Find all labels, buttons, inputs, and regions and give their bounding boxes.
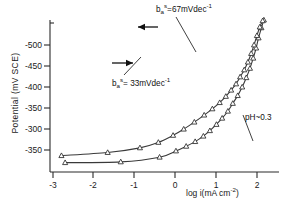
x-tick-label-5: 2 [245, 180, 269, 190]
data-point-marker [247, 66, 252, 71]
annotation-upper-value: =67mVdec [167, 5, 206, 14]
arrow-lower [112, 60, 133, 66]
data-point-marker [192, 119, 197, 124]
curve-upper-branch [65, 20, 264, 163]
annotation-ph: pH~0.3 [245, 113, 272, 122]
data-point-marker [251, 55, 256, 60]
annotation-tafel-slope-lower: bas= 33mVdec-1 [112, 76, 170, 89]
x-axis-title: log i(mA cm-2) [186, 186, 239, 198]
x-axis-title-main: log i(mA cm [186, 188, 230, 198]
annotation-tafel-slope-upper: bas=67mVdec-1 [156, 2, 212, 15]
x-tick-label-0: -3 [41, 180, 65, 190]
figure-container: -500 -450 -400 -350 -300 -350 -3 -2 -1 0… [0, 0, 296, 210]
x-tick-label-2: -1 [122, 180, 146, 190]
x-axis-title-close: ) [236, 188, 239, 198]
leader-line-upper [176, 17, 196, 52]
x-tick-label-1: -2 [81, 180, 105, 190]
leader-line-lower [124, 57, 141, 75]
arrow-upper [138, 24, 158, 30]
markers-upper-branch [63, 17, 267, 164]
annotation-lower-exponent: -1 [165, 76, 171, 83]
data-point-marker [244, 75, 249, 80]
data-point-marker [181, 126, 186, 131]
data-point-marker [249, 51, 254, 56]
y-tick-marks [44, 23, 54, 150]
annotation-upper-exponent: -1 [206, 2, 212, 9]
data-point-marker [245, 59, 250, 64]
data-point-marker [251, 42, 256, 47]
y-axis-title: Potential (mV SCE) [10, 34, 20, 152]
annotation-lower-value: = 33mVdec [123, 79, 165, 88]
chart-canvas [0, 0, 296, 210]
data-point-marker [240, 84, 245, 89]
x-tick-label-3: 0 [163, 180, 187, 190]
x-tick-marks [53, 172, 257, 178]
data-point-marker [235, 93, 240, 98]
data-point-marker [242, 67, 247, 72]
data-point-marker [193, 139, 198, 144]
